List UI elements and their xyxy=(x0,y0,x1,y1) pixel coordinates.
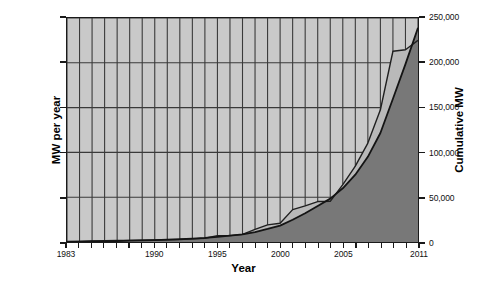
x-tick-mark xyxy=(192,243,193,248)
x-tick-mark xyxy=(330,243,331,248)
y-tick-mark-left xyxy=(60,197,66,199)
y-tick-mark-left xyxy=(60,107,66,109)
x-tick-mark xyxy=(355,243,356,248)
plot-area xyxy=(66,17,419,243)
x-tick-mark xyxy=(229,243,230,248)
y-tick-label-right: 0 xyxy=(429,238,434,248)
x-tick-mark xyxy=(179,243,180,248)
y-tick-mark-right xyxy=(419,152,425,154)
x-tick-mark xyxy=(267,243,268,248)
x-tick-label: 2005 xyxy=(334,249,353,259)
y-tick-mark-right xyxy=(419,197,425,199)
x-tick-mark xyxy=(255,243,256,248)
x-tick-mark xyxy=(166,243,167,248)
x-tick-mark xyxy=(381,243,382,248)
wind-capacity-chart: MW per year Cumulative MW 09,00018,00027… xyxy=(0,0,487,283)
y-tick-mark-right xyxy=(419,16,425,18)
x-tick-mark xyxy=(128,243,129,248)
x-axis-title: Year xyxy=(0,262,487,274)
x-tick-mark xyxy=(116,243,117,248)
x-tick-mark xyxy=(343,243,344,248)
x-tick-mark xyxy=(141,243,142,248)
x-tick-mark xyxy=(65,243,66,248)
y-tick-mark-left xyxy=(60,61,66,63)
left-axis: MW per year xyxy=(0,17,66,243)
x-tick-mark xyxy=(242,243,243,248)
x-tick-mark xyxy=(280,243,281,248)
y-axis-right-title: Cumulative MW xyxy=(453,60,465,200)
x-tick-label: 2000 xyxy=(271,249,290,259)
y-tick-label-right: 250,000 xyxy=(429,12,459,22)
y-tick-label-right: 200,000 xyxy=(429,57,459,67)
x-tick-mark xyxy=(103,243,104,248)
x-tick-mark xyxy=(418,243,419,248)
x-tick-mark xyxy=(318,243,319,248)
y-tick-mark-left xyxy=(60,152,66,154)
x-tick-mark xyxy=(406,243,407,248)
x-tick-mark xyxy=(154,243,155,248)
x-tick-mark xyxy=(292,243,293,248)
x-tick-mark xyxy=(393,243,394,248)
y-tick-mark-right xyxy=(419,107,425,109)
x-tick-mark xyxy=(368,243,369,248)
y-tick-label-right: 50,000 xyxy=(429,193,454,203)
x-tick-label: 1990 xyxy=(145,249,164,259)
y-tick-label-right: 100,000 xyxy=(429,148,459,158)
y-axis-left-title: MW per year xyxy=(50,60,62,200)
x-tick-label: 1983 xyxy=(57,249,76,259)
x-tick-mark xyxy=(204,243,205,248)
x-tick-mark xyxy=(78,243,79,248)
y-tick-mark-left xyxy=(60,16,66,18)
x-tick-label: 2011 xyxy=(410,249,428,259)
x-tick-label: 1995 xyxy=(208,249,227,259)
x-tick-mark xyxy=(217,243,218,248)
right-axis: Cumulative MW xyxy=(419,17,487,243)
y-tick-label-right: 150,000 xyxy=(429,102,459,112)
y-tick-mark-right xyxy=(419,61,425,63)
x-tick-mark xyxy=(91,243,92,248)
y-tick-mark-right xyxy=(419,242,425,244)
x-tick-mark xyxy=(305,243,306,248)
plot-canvas xyxy=(67,18,418,242)
